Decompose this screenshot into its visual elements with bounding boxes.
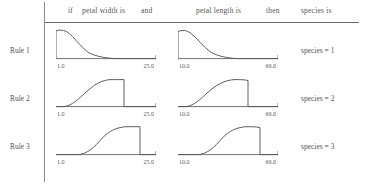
header-divider — [44, 22, 359, 23]
membership-function-curve — [178, 127, 278, 155]
x-axis-max-label: 25.0 — [144, 63, 155, 69]
fuzzy-rule-viewer: if petal width is and petal length is th… — [0, 0, 365, 185]
x-axis-min-label: 10.0 — [179, 63, 190, 69]
membership-function-curve — [56, 30, 156, 58]
header-then-label: then — [266, 6, 280, 15]
membership-function-curve — [56, 80, 156, 107]
membership-curve-svg — [178, 76, 278, 112]
rule-table-header: if petal width is and petal length is th… — [0, 0, 365, 24]
header-antecedent2-label: petal length is — [196, 6, 241, 15]
rule-consequent: species = 1 — [301, 46, 334, 55]
membership-curve-svg — [56, 28, 156, 64]
membership-plot-petal-width[interactable]: 1.0 25.0 — [56, 124, 156, 168]
membership-plot-petal-length[interactable]: 10.0 69.0 — [178, 76, 278, 120]
membership-curve-svg — [178, 124, 278, 160]
rule-consequent: species = 2 — [301, 94, 334, 103]
rule-name: Rule 2 — [10, 94, 30, 103]
membership-plot-petal-width[interactable]: 1.0 25.0 — [56, 28, 156, 72]
x-axis-min-label: 10.0 — [179, 159, 190, 165]
x-axis-min-label: 1.0 — [57, 63, 65, 69]
membership-function-curve — [56, 127, 156, 155]
rule-row[interactable]: Rule 1 1.0 25.0 10.0 69.0 species = 1 — [0, 26, 365, 74]
header-consequent-label: species is — [301, 6, 332, 15]
membership-curve-svg — [56, 76, 156, 112]
membership-plot-petal-length[interactable]: 10.0 69.0 — [178, 124, 278, 168]
rule-name: Rule 1 — [10, 46, 30, 55]
x-axis-max-label: 69.0 — [266, 111, 277, 117]
header-and-label: and — [141, 6, 152, 15]
membership-function-curve — [178, 30, 278, 58]
x-axis-min-label: 1.0 — [57, 111, 65, 117]
rule-name: Rule 3 — [10, 142, 30, 151]
header-antecedent1-label: petal width is — [82, 6, 125, 15]
header-if-label: if — [68, 6, 73, 15]
x-axis-max-label: 69.0 — [266, 159, 277, 165]
membership-plot-petal-width[interactable]: 1.0 25.0 — [56, 76, 156, 120]
membership-plot-petal-length[interactable]: 10.0 69.0 — [178, 28, 278, 72]
x-axis-max-label: 25.0 — [144, 159, 155, 165]
membership-curve-svg — [56, 124, 156, 160]
x-axis-min-label: 1.0 — [57, 159, 65, 165]
rule-row[interactable]: Rule 3 1.0 25.0 10.0 69.0 species = 3 — [0, 122, 365, 170]
rule-consequent: species = 3 — [301, 142, 334, 151]
x-axis-max-label: 69.0 — [266, 63, 277, 69]
membership-function-curve — [178, 80, 278, 107]
rule-row[interactable]: Rule 2 1.0 25.0 10.0 69.0 species = 2 — [0, 74, 365, 122]
membership-curve-svg — [178, 28, 278, 64]
x-axis-min-label: 10.0 — [179, 111, 190, 117]
x-axis-max-label: 25.0 — [144, 111, 155, 117]
